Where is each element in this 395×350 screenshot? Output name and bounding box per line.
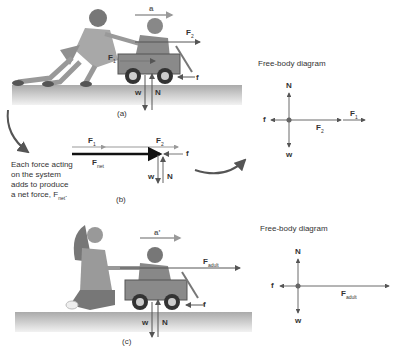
panel-c-illustration [15, 225, 252, 337]
panel-b-normal: N [167, 172, 173, 181]
accel-label-a-prime: a' [154, 228, 160, 237]
force-label-friction: f [196, 73, 199, 82]
free-body-diagram-c [280, 259, 389, 313]
panel-b-weight: w [148, 172, 154, 181]
force-label-friction-c: f [203, 300, 206, 309]
force-label-weight: w [135, 88, 141, 97]
fbd-c-title: Free-body diagram [260, 224, 328, 233]
force-label-f2: F2 [186, 28, 194, 39]
fbd-a-weight: w [286, 150, 292, 159]
caption-c: (c) [122, 337, 131, 346]
force-label-normal: N [155, 88, 161, 97]
fbd-a-friction: f [263, 115, 266, 124]
fbd-a-normal: N [286, 81, 292, 90]
free-body-diagram-a [271, 93, 365, 147]
net-force-note: Each force acting on the system adds to … [11, 160, 73, 203]
caption-b: (b) [116, 195, 126, 204]
panel-b-f1: F1 [88, 136, 96, 147]
panel-b-friction: f [186, 149, 189, 158]
fbd-c-friction: f [271, 281, 274, 290]
fbd-a-title: Free-body diagram [258, 59, 326, 68]
panel-b-f2: F2 [156, 136, 164, 147]
curved-arrow-a-to-b [8, 110, 28, 152]
fbd-c-normal: N [295, 247, 301, 256]
curved-arrow-b-to-fbd [195, 160, 245, 173]
force-label-normal-c: N [162, 318, 168, 327]
fbd-c-weight: w [295, 316, 301, 325]
accel-label-a: a [149, 4, 153, 13]
panel-b-fnet: Fnet [92, 158, 104, 169]
force-label-fadult: Fadult [203, 257, 219, 268]
fbd-a-f1: F1 [350, 109, 358, 120]
force-label-weight-c: w [142, 318, 148, 327]
fbd-a-f2: F2 [316, 123, 324, 134]
fbd-c-fadult: Fadult [341, 289, 357, 300]
force-label-f1: F1 [108, 53, 116, 64]
caption-a: (a) [117, 109, 127, 118]
panel-a-illustration [12, 9, 242, 110]
